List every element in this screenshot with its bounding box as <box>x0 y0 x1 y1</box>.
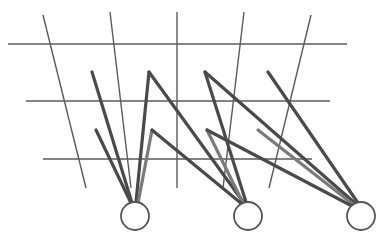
edge-11 <box>258 130 354 205</box>
node-3-circle <box>347 202 375 230</box>
node-1-circle <box>121 202 149 230</box>
connection-edges <box>92 72 358 206</box>
diagram-canvas <box>0 0 384 237</box>
output-nodes <box>121 202 375 230</box>
network-diagram <box>0 0 384 237</box>
node-2-circle <box>234 202 262 230</box>
